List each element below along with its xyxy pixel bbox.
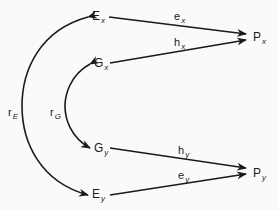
- node-Gx-sub: x: [104, 63, 108, 72]
- node-Gx-base: G: [94, 56, 103, 70]
- edge-ey-sub: y: [185, 175, 189, 184]
- path-diagram-canvas: [0, 0, 279, 210]
- corr-rE-sub: E: [13, 112, 18, 121]
- node-Py-base: P: [253, 166, 261, 180]
- edge-hx-base: h: [174, 36, 180, 48]
- node-Px-sub: x: [262, 37, 266, 46]
- edge-ex-base: e: [174, 10, 180, 22]
- node-Gx: Gx: [94, 57, 108, 72]
- edge-label-hy: hy: [178, 145, 189, 159]
- node-Gy: Gy: [94, 142, 108, 157]
- edge-ex-sub: x: [181, 16, 185, 25]
- node-Px: Px: [253, 31, 266, 46]
- node-Ex-base: E: [92, 9, 100, 23]
- node-Gy-base: G: [94, 141, 103, 155]
- edge-hy-sub: y: [185, 150, 189, 159]
- correlation-arc-rG: [65, 64, 90, 148]
- node-Ey: Ey: [92, 188, 105, 203]
- edge-ey-base: e: [178, 169, 184, 181]
- node-Ey-base: E: [92, 187, 100, 201]
- edge-hy-base: h: [178, 144, 184, 156]
- node-Ex-sub: x: [101, 16, 105, 25]
- edge-label-ex: ex: [174, 11, 185, 25]
- node-Ey-sub: y: [101, 194, 105, 203]
- node-Ex: Ex: [92, 10, 105, 25]
- node-Px-base: P: [253, 30, 261, 44]
- corr-rG-base: r: [50, 106, 54, 118]
- edge-label-ey: ey: [178, 170, 189, 184]
- correlation-label-rG: rG: [50, 107, 61, 121]
- correlation-arc-rE: [22, 17, 88, 195]
- node-Gy-sub: y: [104, 148, 108, 157]
- corr-rG-sub: G: [55, 112, 61, 121]
- edge-label-hx: hx: [174, 37, 185, 51]
- node-Py: Py: [253, 167, 266, 182]
- edge-hx-sub: x: [181, 42, 185, 51]
- node-Py-sub: y: [262, 173, 266, 182]
- correlation-label-rE: rE: [8, 107, 18, 121]
- corr-rE-base: r: [8, 106, 12, 118]
